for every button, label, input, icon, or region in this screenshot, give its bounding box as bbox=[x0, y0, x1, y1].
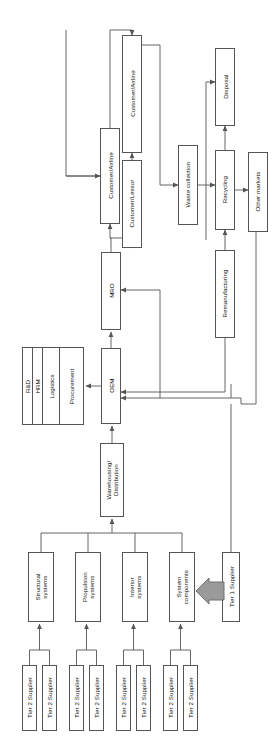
node-structural_systems: Structural systems bbox=[28, 552, 54, 622]
node-label: System components bbox=[175, 570, 189, 604]
oem-functions-stack: R&DHRMLogisticsProcurement bbox=[22, 347, 84, 425]
node-label: Propulsion systems bbox=[81, 572, 95, 602]
node-recycling: Recycling bbox=[215, 150, 235, 230]
node-label: Disposal bbox=[221, 75, 228, 99]
node-other_markets: Other markets bbox=[248, 152, 268, 232]
tier1-to-system-components-block-arrow bbox=[195, 578, 225, 604]
node-mro: MRO bbox=[101, 252, 121, 330]
node-t2_2: Tier 2 Supplier bbox=[42, 665, 57, 731]
node-label: Customer/Airline bbox=[128, 71, 135, 118]
node-disposal: Disposal bbox=[215, 48, 235, 126]
node-t2_5: Tier 2 Supplier bbox=[116, 665, 131, 731]
node-label: Tier 2 Supplier bbox=[140, 678, 147, 719]
function-cell: Logistics bbox=[43, 348, 60, 424]
node-propulsion_systems: Propulsion systems bbox=[75, 552, 101, 622]
function-cell: HRM bbox=[33, 348, 43, 424]
node-label: Customer/Airline bbox=[106, 153, 113, 200]
node-label: Tier 2 Supplier bbox=[46, 678, 53, 719]
node-label: Tier 2 Supplier bbox=[73, 678, 80, 719]
node-label: Tier 2 Supplier bbox=[120, 678, 127, 719]
node-t2_7: Tier 2 Supplier bbox=[163, 665, 178, 731]
node-t2_3: Tier 2 Supplier bbox=[69, 665, 84, 731]
node-label: MRO bbox=[107, 284, 114, 299]
node-label: Warehousing/ Distribution bbox=[105, 461, 119, 500]
node-waste_collection: Waste collection bbox=[178, 145, 198, 225]
node-system_components: System components bbox=[169, 552, 195, 622]
node-warehousing: Warehousing/ Distribution bbox=[100, 443, 124, 517]
node-remanufacturing: Remanufacturing bbox=[215, 250, 235, 338]
node-label: OEM bbox=[107, 379, 114, 393]
node-label: Customer/Lessor bbox=[128, 180, 135, 228]
function-cell-label: Logistics bbox=[47, 374, 54, 398]
node-t2_1: Tier 2 Supplier bbox=[22, 665, 37, 731]
node-label: Other markets bbox=[254, 172, 261, 212]
node-label: Interior systems bbox=[128, 575, 142, 599]
node-label: Tier 2 Supplier bbox=[187, 678, 194, 719]
node-label: Tier 2 Supplier bbox=[26, 678, 33, 719]
node-label: Tier 2 Supplier bbox=[93, 678, 100, 719]
function-cell-label: HRM bbox=[34, 379, 41, 393]
node-label: Structural systems bbox=[34, 574, 48, 601]
node-interior_systems: Interior systems bbox=[122, 552, 148, 622]
function-cell-label: R&D bbox=[24, 379, 31, 392]
node-t2_4: Tier 2 Supplier bbox=[89, 665, 104, 731]
function-cell: Procurement bbox=[60, 348, 83, 424]
node-label: Waste collection bbox=[184, 162, 191, 208]
function-cell: R&D bbox=[23, 348, 33, 424]
node-customer_airline_left: Customer/Airline bbox=[100, 128, 120, 224]
node-t2_8: Tier 2 Supplier bbox=[183, 665, 198, 731]
supply-chain-diagram: Customer/AirlineCustomer/AirlineCustomer… bbox=[0, 0, 280, 749]
node-customer_airline_top: Customer/Airline bbox=[122, 35, 142, 153]
node-label: Remanufacturing bbox=[221, 270, 228, 318]
function-cell-label: Procurement bbox=[68, 368, 75, 403]
node-t2_6: Tier 2 Supplier bbox=[136, 665, 151, 731]
node-label: Recycling bbox=[221, 176, 228, 203]
node-oem: OEM bbox=[101, 348, 121, 424]
node-customer_lessor: Customer/Lessor bbox=[122, 160, 142, 248]
node-label: Tier 2 Supplier bbox=[167, 678, 174, 719]
node-label: Tier 1 Supplier bbox=[227, 567, 234, 608]
